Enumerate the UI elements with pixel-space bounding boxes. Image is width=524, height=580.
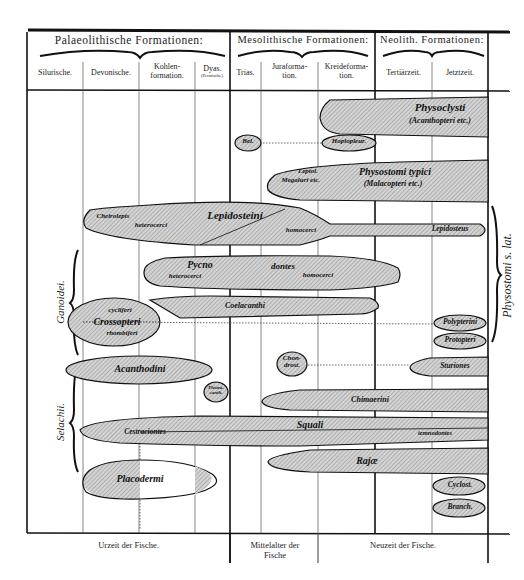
taxon-crossopteri: Crossopteri bbox=[82, 317, 152, 328]
period-tertiary: Tertiärzeit. bbox=[375, 68, 432, 77]
era-neolithic: Neolith. Formationen: bbox=[376, 34, 488, 46]
period-dyas: Dyas. (Permische). bbox=[195, 64, 230, 78]
taxon-coelacanthi: Coelacanthi bbox=[210, 302, 280, 310]
taxon-malacopteri: (Malacopteri etc.) bbox=[348, 180, 438, 188]
period-carboniferous: Kohlen- formation. bbox=[139, 62, 195, 80]
period-dyas-label: Dyas. bbox=[195, 64, 230, 73]
taxon-cycliferi: cycliferi bbox=[95, 307, 145, 314]
taxon-homocerci-1: homocerci bbox=[276, 227, 326, 234]
taxon-temnodontes: temnodontes bbox=[400, 430, 470, 437]
taxon-squali: Squali bbox=[280, 420, 340, 431]
taxon-hoplopleur: Hoplopleur. bbox=[324, 138, 374, 145]
taxon-rajae: Rajæ bbox=[342, 456, 392, 467]
period-cretaceous: Kreideforma- tion. bbox=[318, 62, 375, 80]
taxon-branch: Branch. bbox=[434, 503, 486, 511]
taxon-dontes: dontes bbox=[258, 262, 308, 271]
taxon-leptol: Leptol. bbox=[288, 168, 318, 175]
taxon-physoclysti: Physoclysti bbox=[400, 102, 480, 114]
period-devonian: Devonische. bbox=[83, 68, 139, 77]
taxon-chimaerini: Chimaerini bbox=[335, 396, 405, 404]
label-selachii: Selachii. bbox=[54, 392, 66, 452]
taxon-polypterini: Polypterini bbox=[434, 318, 486, 326]
era-mesolithic: Mesolithische Formationen: bbox=[232, 34, 374, 46]
label-physostomi-lat: Physostomi s. lat. bbox=[500, 231, 515, 321]
label-ganoidei: Ganoidei. bbox=[54, 272, 66, 332]
diagram-graphics bbox=[0, 0, 524, 580]
period-jurassic: Juraforma- tion. bbox=[261, 62, 318, 80]
taxon-homocerci-2: homocerci bbox=[288, 272, 348, 279]
taxon-bel: Bel. bbox=[238, 138, 258, 145]
era-braces bbox=[40, 51, 484, 58]
taxon-protopteri: Protopteri bbox=[434, 336, 486, 344]
taxon-rhombiferi: rhombiferi bbox=[92, 330, 152, 337]
taxon-cyclost: Cyclost. bbox=[434, 481, 486, 489]
footer-mittelalter: Mittelalter der Fische bbox=[232, 540, 318, 560]
header-rule bbox=[27, 90, 510, 91]
taxon-heterocerci-1: heterocerci bbox=[126, 222, 176, 229]
taxon-pleuracanth: Pleura- canth. bbox=[204, 385, 228, 396]
era-palaeolithic: Palaeolithische Formationen: bbox=[30, 34, 228, 47]
period-dyas-sub: (Permische). bbox=[195, 73, 230, 78]
body-bottom-rule bbox=[27, 533, 510, 534]
taxon-sturiones: Sturiones bbox=[426, 362, 484, 370]
taxon-acanthopteri: (Acanthopteri etc.) bbox=[395, 117, 485, 125]
taxon-lepidosteus: Lepidosteus bbox=[420, 225, 480, 233]
period-silurian: Silurische. bbox=[27, 68, 83, 77]
period-present: Jetztzeit. bbox=[432, 68, 488, 77]
taxon-cheirolepis: Cheirolepis bbox=[88, 213, 138, 220]
fish-phylogeny-diagram: Palaeolithische Formationen: Mesolithisc… bbox=[0, 0, 524, 580]
taxon-pycno: Pycno bbox=[175, 260, 225, 271]
taxon-acanthodini: Acanthodini bbox=[90, 364, 190, 375]
taxon-physostomi-typici: Physostomi typici bbox=[345, 167, 445, 178]
period-trias: Trias. bbox=[230, 68, 261, 77]
taxon-megaluri: Megaluri etc. bbox=[262, 177, 320, 184]
footer-neuzeit: Neuzeit der Fische. bbox=[318, 540, 488, 550]
taxon-chondrost: Chon- drost. bbox=[277, 355, 307, 370]
taxon-cestraciontes: Cestraciontes bbox=[105, 428, 185, 436]
top-rule bbox=[28, 30, 510, 32]
taxon-placodermi: Placodermi bbox=[100, 474, 180, 485]
taxon-heterocerci-2: heterocerci bbox=[150, 273, 220, 280]
footer-urzeit: Urzeit der Fische. bbox=[27, 540, 230, 550]
taxon-lepidosteini: Lepidosteini bbox=[195, 210, 275, 222]
